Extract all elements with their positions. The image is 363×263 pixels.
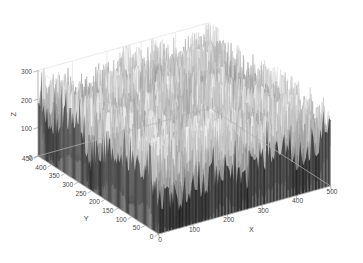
svg-text:400: 400	[35, 164, 46, 171]
svg-text:200: 200	[21, 97, 32, 104]
svg-text:500: 500	[326, 188, 337, 195]
z-axis-title: Z	[9, 111, 18, 116]
y-axis-title: Y	[84, 214, 89, 223]
svg-text:400: 400	[292, 197, 303, 204]
svg-text:200: 200	[223, 216, 234, 223]
svg-text:0: 0	[150, 233, 154, 240]
x-axis-title: X	[249, 225, 254, 234]
svg-text:100: 100	[21, 125, 32, 132]
svg-text:200: 200	[89, 198, 100, 205]
svg-text:250: 250	[76, 190, 87, 197]
svg-text:150: 150	[102, 207, 113, 214]
surface-plot-3d[interactable]: 0100200300050100150200250300350400450010…	[0, 0, 363, 263]
svg-text:450: 450	[22, 155, 33, 162]
svg-text:300: 300	[62, 181, 73, 188]
svg-text:50: 50	[133, 224, 141, 231]
svg-text:100: 100	[116, 216, 127, 223]
svg-text:300: 300	[258, 207, 269, 214]
figure-canvas: 0100200300050100150200250300350400450010…	[0, 0, 363, 263]
svg-text:100: 100	[189, 226, 200, 233]
svg-text:0: 0	[158, 236, 162, 243]
svg-text:300: 300	[21, 68, 32, 75]
svg-text:350: 350	[49, 172, 60, 179]
